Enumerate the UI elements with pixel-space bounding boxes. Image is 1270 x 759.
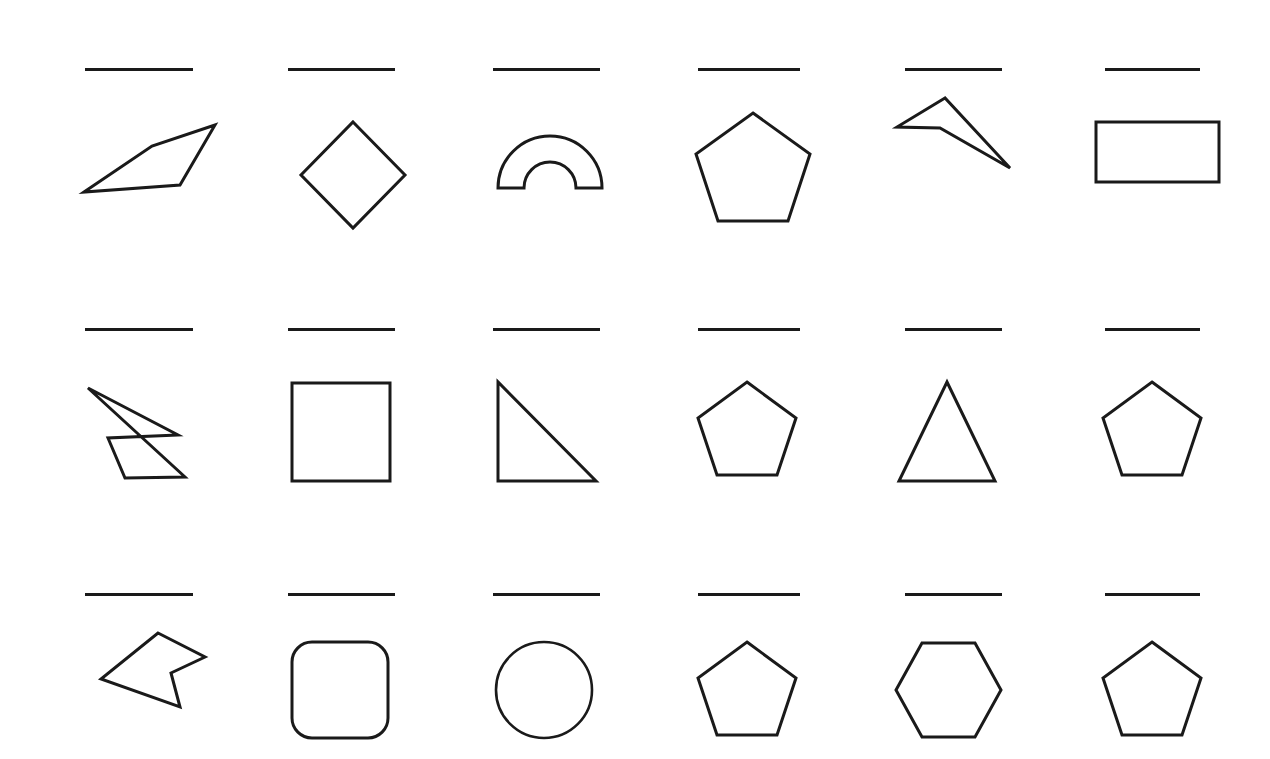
shape-cell-9	[470, 310, 675, 540]
shape-grid-sheet	[0, 0, 1270, 759]
shape-cell-15	[470, 575, 675, 759]
shape-cell-16	[670, 575, 875, 759]
shape-cell-6	[1080, 50, 1270, 280]
shape-half-annulus-arch	[470, 80, 675, 260]
horizontal-rule-icon	[85, 593, 193, 596]
horizontal-rule-icon	[288, 328, 395, 331]
shape-regular-pentagon	[670, 80, 875, 260]
shape-cell-18	[1080, 575, 1270, 759]
shape-regular-pentagon	[1080, 605, 1270, 759]
horizontal-rule-icon	[698, 328, 800, 331]
horizontal-rule-icon	[905, 328, 1002, 331]
shape-cell-7	[60, 310, 265, 540]
shape-cell-10	[670, 310, 875, 540]
shape-regular-pentagon	[670, 605, 875, 759]
horizontal-rule-icon	[493, 68, 600, 71]
shape-cell-5	[875, 50, 1080, 280]
shape-cell-4	[670, 50, 875, 280]
shape-cell-11	[875, 310, 1080, 540]
horizontal-rule-icon	[1105, 68, 1200, 71]
shape-rectangle	[1080, 80, 1270, 260]
horizontal-rule-icon	[698, 68, 800, 71]
horizontal-rule-icon	[493, 328, 600, 331]
shape-right-triangle	[470, 340, 675, 520]
shape-regular-pentagon	[1080, 340, 1270, 520]
shape-square	[265, 340, 470, 520]
shape-cell-14	[265, 575, 470, 759]
shape-cell-12	[1080, 310, 1270, 540]
horizontal-rule-icon	[1105, 328, 1200, 331]
shape-concave-boat-pentagon	[60, 340, 265, 520]
shape-equilateral-triangle	[875, 340, 1080, 520]
horizontal-rule-icon	[1105, 593, 1200, 596]
horizontal-rule-icon	[288, 593, 395, 596]
horizontal-rule-icon	[288, 68, 395, 71]
shape-cell-17	[875, 575, 1080, 759]
shape-cell-13	[60, 575, 265, 759]
horizontal-rule-icon	[85, 328, 193, 331]
shape-irregular-quadrilateral	[60, 80, 265, 260]
shape-concave-dart	[875, 80, 1080, 260]
shape-circle	[470, 605, 675, 759]
shape-cell-8	[265, 310, 470, 540]
shape-diamond-square	[265, 80, 470, 260]
horizontal-rule-icon	[493, 593, 600, 596]
horizontal-rule-icon	[905, 68, 1002, 71]
shape-cell-3	[470, 50, 675, 280]
horizontal-rule-icon	[698, 593, 800, 596]
horizontal-rule-icon	[905, 593, 1002, 596]
shape-cell-1	[60, 50, 265, 280]
shape-regular-pentagon	[670, 340, 875, 520]
shape-cell-2	[265, 50, 470, 280]
shape-concave-left-arrow	[60, 605, 265, 759]
horizontal-rule-icon	[85, 68, 193, 71]
shape-regular-hexagon	[875, 605, 1080, 759]
shape-rounded-square	[265, 605, 470, 759]
